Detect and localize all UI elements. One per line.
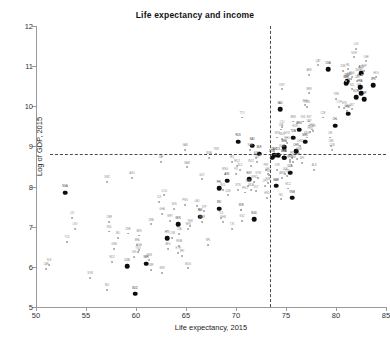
data-point <box>225 178 230 183</box>
data-point <box>241 117 243 119</box>
point-label: UZB <box>226 191 231 194</box>
data-point <box>106 289 108 291</box>
point-label: UKR2 <box>251 177 258 180</box>
data-point <box>351 76 353 78</box>
data-point <box>351 109 353 111</box>
data-point <box>187 268 189 270</box>
point-label: KEN <box>175 219 180 222</box>
y-tick-label: 11 <box>25 62 33 71</box>
point-label: BLZ <box>238 165 242 168</box>
point-label: JAM <box>291 157 296 160</box>
data-point <box>281 150 283 152</box>
point-label: MNG <box>222 169 228 172</box>
data-point <box>63 190 68 195</box>
data-point <box>250 189 252 191</box>
x-tick-label: 75 <box>282 311 290 320</box>
data-point <box>281 177 283 179</box>
point-label: BTN <box>236 185 241 188</box>
point-label: GIN <box>132 252 136 255</box>
point-label: MMR <box>199 218 205 221</box>
data-point <box>253 181 255 183</box>
data-point <box>201 221 203 223</box>
data-point <box>249 149 251 151</box>
x-axis-line <box>36 307 386 308</box>
data-point <box>181 255 183 257</box>
data-point <box>365 60 367 62</box>
data-point <box>329 137 331 139</box>
point-label: CPV <box>262 181 267 184</box>
data-point <box>250 165 252 167</box>
point-label: VEN <box>274 133 279 136</box>
data-point <box>165 236 170 241</box>
chart-title: Life expectancy and income <box>0 10 390 20</box>
data-point <box>301 162 303 164</box>
x-tick-label: 65 <box>182 311 190 320</box>
point-label: PNG <box>182 200 187 203</box>
point-label: ZWE <box>125 229 130 232</box>
data-point <box>274 183 279 188</box>
point-label: TUN <box>284 172 289 175</box>
data-point <box>281 138 283 140</box>
data-point <box>111 261 113 263</box>
y-axis-label: Log of GDP, 2015 <box>35 117 44 176</box>
x-tick-label: 80 <box>332 311 340 320</box>
point-label: ROU <box>284 139 289 142</box>
point-label: KGZ <box>239 216 244 219</box>
data-point <box>89 277 91 279</box>
data-point <box>163 194 165 196</box>
point-label: TKM <box>213 149 218 152</box>
point-label: SSD <box>106 227 111 230</box>
data-point <box>335 98 337 100</box>
data-point <box>231 228 233 230</box>
point-label: JOR <box>275 165 280 168</box>
point-label: MDG <box>185 264 191 267</box>
point-label: STP <box>202 207 207 210</box>
data-point <box>255 157 257 159</box>
data-point <box>133 291 138 296</box>
data-point <box>292 121 294 123</box>
data-point <box>184 149 186 151</box>
point-label: QAT <box>316 61 321 64</box>
data-point <box>177 252 179 254</box>
point-label: MRT <box>167 216 172 219</box>
data-point <box>125 264 130 269</box>
data-point <box>313 169 315 171</box>
point-label: RWA <box>176 242 182 245</box>
point-label: SUR <box>247 145 252 148</box>
point-label: USA <box>325 64 330 67</box>
data-point <box>207 244 209 246</box>
data-point <box>296 158 298 160</box>
point-label: LVA <box>279 125 283 128</box>
data-point <box>176 222 181 227</box>
data-point <box>345 80 347 82</box>
point-label: JPN <box>371 80 376 83</box>
data-point <box>184 204 186 206</box>
point-label: MAR <box>273 180 278 183</box>
point-label: GUY <box>199 175 204 178</box>
point-label: MLT <box>350 105 355 108</box>
data-point <box>208 157 210 159</box>
point-label: KWT <box>279 85 284 88</box>
data-point <box>169 220 171 222</box>
point-label: SVK <box>301 117 306 120</box>
data-point <box>294 130 296 132</box>
point-label: BDI <box>105 286 109 289</box>
point-label: SVN <box>341 104 346 107</box>
data-point <box>189 225 191 227</box>
point-label: CMR <box>106 218 112 221</box>
data-point <box>292 161 294 163</box>
data-point <box>235 173 237 175</box>
data-point <box>342 70 344 72</box>
point-label: BRN <box>306 89 311 92</box>
point-label: ZAF2 <box>271 149 277 152</box>
point-label: BEN <box>136 231 141 234</box>
y-tick-label: 7 <box>29 222 33 231</box>
point-label: LSO <box>73 224 78 227</box>
data-point <box>343 107 345 109</box>
point-label: GHA <box>159 209 164 212</box>
data-point <box>45 268 47 270</box>
point-label: FJI <box>234 169 237 172</box>
data-point <box>161 272 163 274</box>
data-point <box>351 88 353 90</box>
data-point <box>266 197 268 199</box>
